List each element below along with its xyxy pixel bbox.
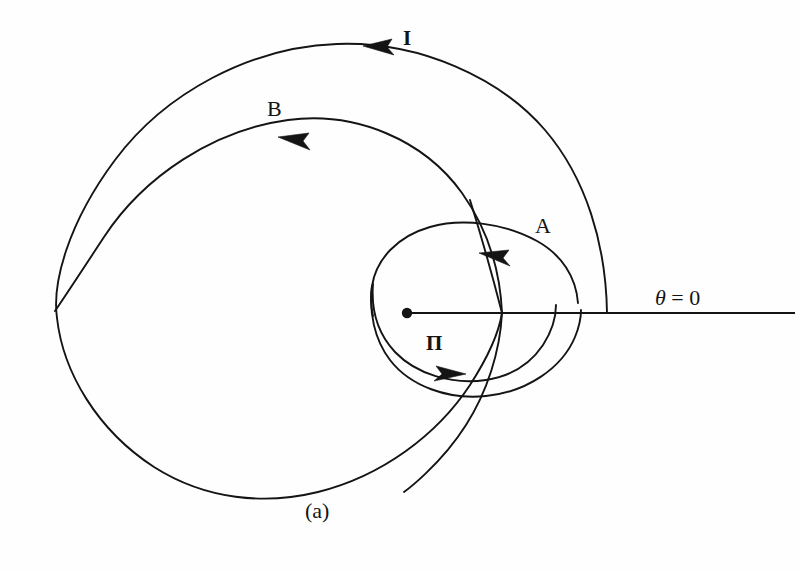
label-theta-axis: θ = 0 (655, 287, 700, 309)
theta-equals: = (666, 285, 689, 310)
figure-caption: (a) (305, 500, 329, 522)
label-orbit-outer: I (403, 28, 412, 49)
theta-symbol: θ (655, 285, 666, 310)
label-apsis-inner: A (535, 215, 551, 237)
figure-container: I B A Π θ = 0 (a) (0, 0, 801, 570)
outer-orbit-tail (404, 313, 502, 492)
origin-point (402, 308, 412, 318)
arrow-marker-orbit-B (278, 133, 310, 150)
label-orbit-inner: Π (426, 333, 443, 354)
inner-orbit-curve-II-inner (373, 284, 556, 381)
theta-value: 0 (689, 285, 700, 310)
outer-orbit-curve-B (55, 118, 502, 313)
outer-orbit-curve-I (56, 44, 607, 499)
inner-orbit-curve-II (371, 286, 581, 397)
label-apsis-outer: B (267, 98, 282, 120)
